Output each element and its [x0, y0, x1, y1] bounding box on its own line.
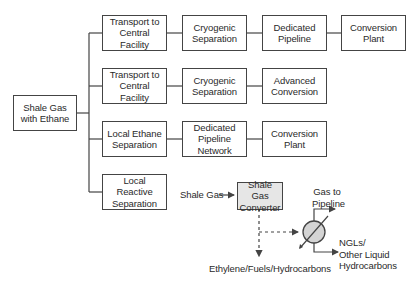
step-transport-central-2: Transport to Central Facility — [102, 68, 167, 104]
step-conversion-plant-3: Conversion Plant — [262, 121, 327, 157]
step-cryogenic-separation-1: Cryogenic Separation — [182, 15, 247, 51]
shale-gas-input-label: Shale Gas — [180, 189, 223, 201]
step-local-reactive-separation: Local Reactive Separation — [102, 174, 167, 210]
step-dedicated-pipeline: Dedicated Pipeline — [262, 15, 327, 51]
step-cryogenic-separation-2: Cryogenic Separation — [182, 68, 247, 104]
step-transport-central-1: Transport to Central Facility — [102, 15, 167, 51]
step-advanced-conversion: Advanced Conversion — [262, 68, 327, 104]
ethylene-fuels-hydrocarbons-label: Ethylene/Fuels/Hydrocarbons — [209, 263, 331, 275]
ngls-liquid-hydrocarbons-label: NGLs/ Other Liquid Hydrocarbons — [339, 237, 397, 272]
step-conversion-plant-1: Conversion Plant — [341, 15, 406, 51]
gas-to-pipeline-label: Gas to Pipeline — [312, 186, 342, 209]
step-dedicated-pipeline-network: Dedicated Pipeline Network — [182, 121, 247, 157]
shale-gas-converter-box: Shale Gas Converter — [237, 182, 283, 210]
root-shale-gas-box: Shale Gas with Ethane — [13, 95, 77, 131]
step-local-ethane-separation: Local Ethane Separation — [102, 121, 167, 157]
